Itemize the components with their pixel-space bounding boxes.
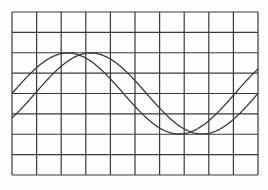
sine-wave-grid-diagram — [0, 0, 268, 190]
grid — [12, 12, 258, 175]
diagram-canvas — [0, 0, 268, 190]
